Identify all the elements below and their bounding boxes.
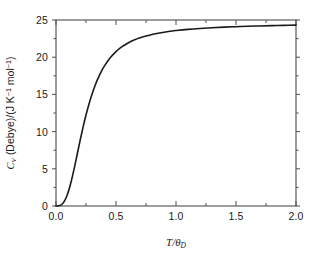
x-axis-title: T/θD [166,236,186,250]
y-axis-title-symbol-subscript: V [10,158,18,162]
x-axis-title-denominator-subscript: D [181,241,186,250]
y-tick-label: 20 [30,51,48,63]
x-tick-label: 0.0 [49,210,64,222]
y-tick-label: 0 [30,200,48,212]
x-tick-label: 2.0 [289,210,304,222]
x-tick-label: 1.5 [229,210,244,222]
figure-debye-heat-capacity: 0.0 0.5 1.0 1.5 2.0 0 5 10 15 20 25 T/θD… [0,0,322,259]
x-tick-label: 1.0 [169,210,184,222]
y-axis-title-exponent-one: −1 [5,88,13,96]
x-tick-label: 0.5 [109,210,124,222]
y-tick-label: 5 [30,163,48,175]
y-axis-title-exponent-two: −1 [5,60,13,68]
y-axis-title-unit-mid: mol [4,68,16,88]
y-tick-label: 15 [30,88,48,100]
y-axis-title-model: (Debye)/(J K [4,96,16,158]
y-axis-title-close: ) [4,57,16,61]
y-axis-title: CV (Debye)/(J K−1 mol−1) [4,57,18,170]
plot-background [56,20,296,206]
y-tick-label: 10 [30,126,48,138]
y-axis-title-symbol: C [5,162,16,169]
y-tick-label: 25 [30,14,48,26]
